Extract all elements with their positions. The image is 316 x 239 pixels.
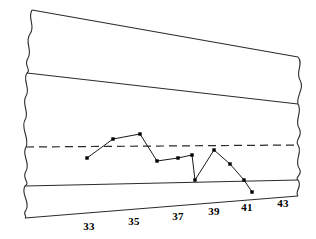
x-axis-tick-label: 33 — [83, 220, 95, 232]
upper-boundary-line — [32, 10, 298, 57]
right-break-edge — [297, 57, 302, 196]
center-line-dashed — [26, 145, 298, 147]
baseline-axis-line — [25, 196, 298, 218]
x-axis-tick-label: 41 — [241, 201, 253, 213]
data-point-marker — [85, 156, 88, 159]
x-axis-tick-labels: 333537394143 — [83, 197, 289, 232]
data-point-marker — [190, 153, 193, 156]
data-point-marker — [242, 178, 245, 181]
x-axis-tick-label: 35 — [128, 215, 140, 227]
chart-canvas: 333537394143 — [0, 0, 316, 239]
data-point-marker — [193, 178, 196, 181]
x-axis-tick-label: 37 — [172, 210, 184, 222]
data-point-marker — [176, 156, 179, 159]
data-point-marker — [250, 190, 253, 193]
data-point-marker — [138, 132, 141, 135]
upper-control-limit-line — [27, 73, 298, 104]
x-axis-tick-label: 39 — [208, 205, 220, 217]
x-axis-tick-label: 43 — [277, 197, 289, 209]
data-point-marker — [155, 159, 158, 162]
data-point-marker — [212, 148, 215, 151]
lower-control-limit-line — [25, 180, 298, 186]
left-break-edge — [24, 10, 33, 218]
data-point-marker — [111, 137, 114, 140]
data-point-marker — [228, 162, 231, 165]
control-chart: 333537394143 — [0, 0, 316, 239]
